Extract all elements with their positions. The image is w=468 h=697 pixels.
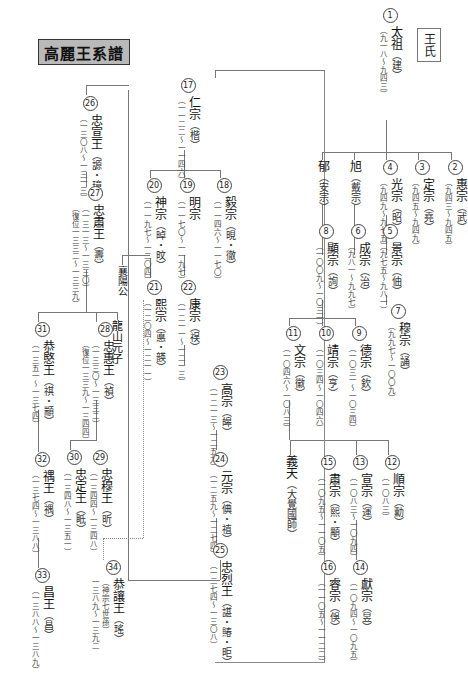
reign-dates: （九四三～九四五） [443,178,452,250]
connector [128,90,129,580]
reign-number: 3 [415,160,430,175]
reign-number: 2 [448,160,463,175]
reign-dates: （九八一～九九七） [346,242,355,314]
reign-number: 7 [391,304,406,319]
king-node-16: 16 睿宗（俁） （一一〇五～一一二二） [316,560,340,666]
reign-dates: （一二七四～一三〇八） [208,561,217,667]
personal-name: （倎・禃） [220,494,231,544]
temple-name: 恭讓王 [110,578,124,614]
clan-label: 王氏 [417,28,441,62]
temple-name: 神宗 [152,196,166,220]
personal-name: （熙・顒） [328,497,339,547]
reign-number: 23 [213,365,228,380]
king-node-17: 17 仁宗（楷） （一一二二～一一四六） [176,78,200,184]
temple-name: 肅宗 [326,473,340,497]
reign-dates: （一〇八三～一〇九四） [348,473,357,561]
king-node-1: 1 太祖（建） （九一八～九四三） [378,8,402,98]
king-node-14: 14 獻宗（昱） （一〇九四～一〇九五） [348,560,372,666]
temple-name: 忠惠王 [100,340,114,376]
reign-dates: （一一七〇～一一九七） [176,196,185,284]
personal-name: （欽） [359,368,370,398]
temple-name: 元宗 [218,470,232,494]
reign-dates: （一三七四～一三八八） [30,470,39,558]
personal-name: （詢） [326,266,337,296]
personal-name: （治） [358,266,369,296]
temple-name: 德宗 [357,344,371,368]
reign-dates: （一〇九五～一一〇五） [316,473,325,561]
temple-name: 毅宗 [222,196,236,220]
reign-number: 17 [181,78,196,93]
king-node-25: 25 忠烈王（諶・賰・昛） （一二七四～一三〇八） [208,543,232,667]
reign-dates: （一〇三四～一〇四六） [314,344,323,432]
reign-number: 1 [383,8,398,23]
king-node-5: 5 景宗（伷） （九七五～九八一） [378,224,402,314]
temple-name: 成宗 [356,242,370,266]
personal-name: （晫・旼） [154,220,165,270]
king-node-11: 11 文宗（徽） （一〇四六～一〇八三） [281,326,305,432]
person-name: 襄陽公 [115,266,128,296]
reign-dates: （一三一三～一三三〇） [80,204,89,308]
reign-dates: （一一二二～一一四六） [176,96,185,184]
personal-name: （瑤） [112,614,123,644]
temple-name: 忠定王 [72,468,86,504]
personal-name: （祺・顓） [42,376,53,426]
reign-number: 12 [385,455,400,470]
reign-number: 27 [88,186,103,201]
king-node-31: 31 恭愍王（祺・顓） （一三五一～一三七四） [30,322,54,428]
king-node-6: 6 成宗（治） （九八一～九九七） [346,224,370,314]
reign-dates: （一二一一～一二一三） [176,298,185,386]
king-node-10: 10 靖宗（亨） （一〇三四～一〇四六） [314,326,338,432]
king-node-20: 20 神宗（晫・旼） （一一九七～一二〇四） [142,178,166,284]
personal-name: （昕） [100,504,111,534]
royal-node-yangyang: 襄陽公 [115,266,128,296]
connector [386,120,387,152]
temple-name: 顯宗 [324,242,338,266]
person-name: 郁 [315,160,329,172]
reign-dates: （九九七～一〇〇九） [386,322,395,402]
reign-dates: （一三八八～一三八九） [30,586,39,674]
personal-name: （昱） [360,602,371,632]
lineage-note: （神宗七世孫） [100,578,109,650]
restored-reign-dates: （復位一三三九～一三四四） [80,340,89,444]
reign-number: 34 [106,560,121,575]
king-node-29: 29 忠穆王（昕） （一三四四～一三四八） [88,450,112,556]
personal-name: （徽） [293,368,304,398]
reign-number: 32 [35,452,50,467]
temple-name: 忠肅王 [90,204,104,240]
personal-name: （皞） [220,407,231,437]
reign-number: 31 [35,322,50,337]
king-node-15: 15 肅宗（熙・顒） （一〇九五～一一〇五） [316,455,340,561]
temple-name: 太祖 [388,26,402,50]
reign-dates: （一一九七～一二〇四） [142,196,151,284]
personal-name: （運） [360,497,371,527]
reign-number: 11 [286,326,301,341]
connector [86,85,87,95]
reign-dates: （一〇四六～一〇八三） [281,344,290,432]
personal-name: （建） [390,50,401,80]
reign-number: 26 [83,96,98,111]
reign-number: 25 [213,543,228,558]
reign-number: 14 [353,560,368,575]
connector [117,312,118,320]
chart-title: 高麗王系譜 [38,39,130,65]
personal-name: （伷） [390,266,401,296]
king-node-27: 27 忠肅王（燾） （一三一三～一三三〇） （復位一三三二～一三三九） [70,186,104,308]
personal-name: （燾） [92,240,103,270]
temple-name: 文宗 [291,344,305,368]
temple-name: 恭愍王 [40,340,54,376]
reign-number: 5 [383,224,398,239]
person-name: 義天 [283,455,297,479]
connector [418,152,419,160]
reign-number: 4 [383,160,398,175]
personal-name: （俁） [328,602,339,632]
connector [355,318,356,326]
king-node-8: 8 顯宗（詢） （一〇〇九～一〇三一） [314,224,338,330]
connector [322,152,452,153]
king-node-33: 33 昌王（昌） （一三八八～一三八九） [30,568,54,674]
personal-name: （楷） [188,120,199,150]
reign-number: 30 [67,450,82,465]
king-node-13: 13 宣宗（運） （一〇八三～一〇九四） [348,455,372,561]
reign-number: 28 [98,322,113,337]
temple-name: 靖宗 [324,344,338,368]
king-node-28: 28 忠惠王（禎） （一三三〇～一三三二） （復位一三三九～一三四四） [80,322,114,444]
